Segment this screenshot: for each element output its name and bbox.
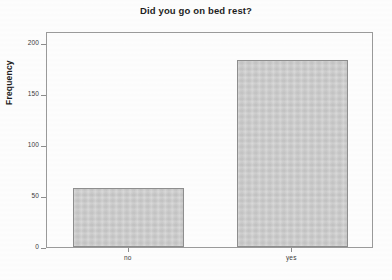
plot-frame [46,32,373,248]
y-tick-label: 50 [32,192,39,199]
x-tick-mark [291,248,292,252]
x-tick-mark [128,248,129,252]
plot-area [47,33,372,247]
x-tick-label-yes: yes [286,254,297,261]
y-tick-label: 200 [28,39,39,46]
y-tick-label: 0 [35,243,39,250]
bar-chart-figure: Did you go on bed rest? Frequency 050100… [0,0,392,280]
y-tick-label: 150 [28,90,39,97]
chart-title: Did you go on bed rest? [0,5,392,16]
y-tick-label: 100 [28,141,39,148]
bar-no[interactable] [73,188,184,247]
y-axis-title: Frequency [4,60,14,105]
x-tick-label-no: no [124,254,132,261]
bar-yes[interactable] [237,60,348,247]
y-tick-mark [41,248,46,249]
